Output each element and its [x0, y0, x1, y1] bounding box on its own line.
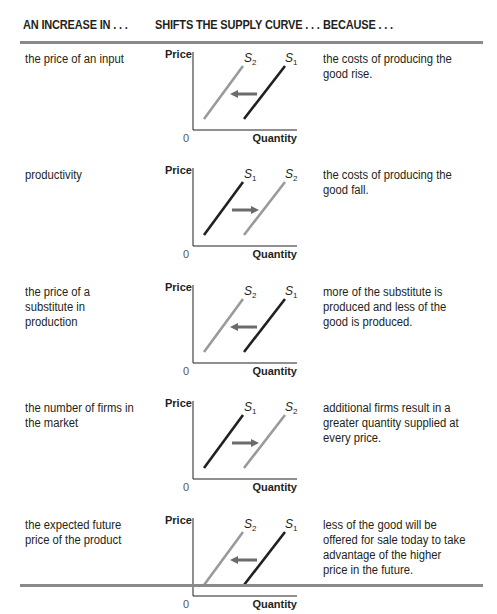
y-axis-label: Price — [165, 48, 192, 60]
because-text: additional firms result in a greater qua… — [323, 401, 467, 446]
right-curve-label: S1 — [285, 517, 297, 533]
y-axis-label: Price — [165, 164, 192, 176]
shift-arrow-icon — [232, 206, 259, 214]
supply-shift-graph: Price0QuantityS2S1 — [150, 514, 310, 614]
x-axis-label: Quantity — [247, 132, 297, 144]
increase-in-text: the number of firms in the market — [25, 401, 138, 431]
right-curve-label: S2 — [285, 400, 297, 416]
increase-in-text: the price of a substitute in production — [25, 285, 138, 330]
supply-shift-graph: Price0QuantityS1S2 — [150, 397, 310, 507]
x-axis-label: Quantity — [247, 365, 297, 377]
origin-label: 0 — [183, 481, 189, 493]
left-curve-label: S2 — [244, 51, 256, 67]
header-shifts-supply-curve: SHIFTS THE SUPPLY CURVE . . . — [155, 18, 320, 32]
origin-label: 0 — [183, 132, 189, 144]
because-text: the costs of producing the good fall. — [323, 168, 467, 198]
supply-shift-graph: Price0QuantityS1S2 — [150, 164, 310, 274]
because-text: more of the substitute is produced and l… — [323, 285, 467, 330]
right-curve-label: S1 — [285, 284, 297, 300]
right-curve-label: S2 — [285, 167, 297, 183]
left-curve-label: S2 — [244, 284, 256, 300]
footer-rule — [20, 584, 483, 587]
origin-label: 0 — [183, 598, 189, 610]
increase-in-text: the expected future price of the product — [25, 518, 138, 548]
origin-label: 0 — [183, 248, 189, 260]
x-axis-label: Quantity — [247, 248, 297, 260]
y-axis-label: Price — [165, 514, 192, 526]
left-curve-label: S1 — [244, 167, 256, 183]
shift-arrow-icon — [230, 323, 257, 331]
shift-arrow-icon — [230, 556, 257, 564]
header-because: BECAUSE . . . — [323, 18, 393, 32]
because-text: the costs of producing the good rise. — [323, 52, 467, 82]
supply-shift-graph: Price0QuantityS2S1 — [150, 281, 310, 391]
increase-in-text: the price of an input — [25, 52, 138, 67]
left-curve-label: S1 — [244, 400, 256, 416]
shift-arrow-icon — [230, 90, 257, 98]
left-curve-label: S2 — [244, 517, 256, 533]
x-axis-label: Quantity — [247, 598, 297, 610]
y-axis-label: Price — [165, 281, 192, 293]
x-axis-label: Quantity — [247, 481, 297, 493]
header-rule — [20, 41, 483, 44]
supply-shift-graph: Price0QuantityS2S1 — [150, 48, 310, 158]
header-increase-in: AN INCREASE IN . . . — [23, 18, 128, 32]
because-text: less of the good will be offered for sal… — [323, 518, 467, 578]
shift-arrow-icon — [232, 439, 259, 447]
increase-in-text: productivity — [25, 168, 138, 183]
y-axis-label: Price — [165, 397, 192, 409]
origin-label: 0 — [183, 365, 189, 377]
right-curve-label: S1 — [285, 51, 297, 67]
